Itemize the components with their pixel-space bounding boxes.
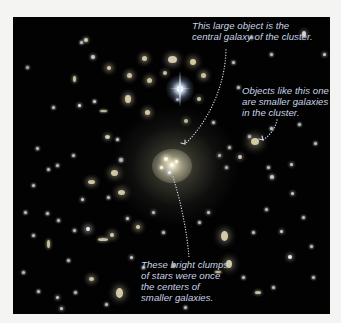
- leader-line-smaller-galaxy: [263, 120, 277, 140]
- leader-line-central-galaxy: [185, 50, 226, 144]
- annotation-central-galaxy: This large object is the central galaxy …: [192, 20, 313, 42]
- galaxy-cluster-image: This large object is the central galaxy …: [13, 17, 330, 314]
- annotation-bright-clumps: These bright clumps of stars were once t…: [141, 259, 228, 303]
- arrowhead-central-galaxy: [181, 140, 185, 144]
- leader-line-bright-clumps: [173, 177, 189, 257]
- annotation-smaller-galaxies: Objects like this one are smaller galaxi…: [242, 85, 329, 118]
- arrowhead-smaller-galaxy: [259, 136, 263, 140]
